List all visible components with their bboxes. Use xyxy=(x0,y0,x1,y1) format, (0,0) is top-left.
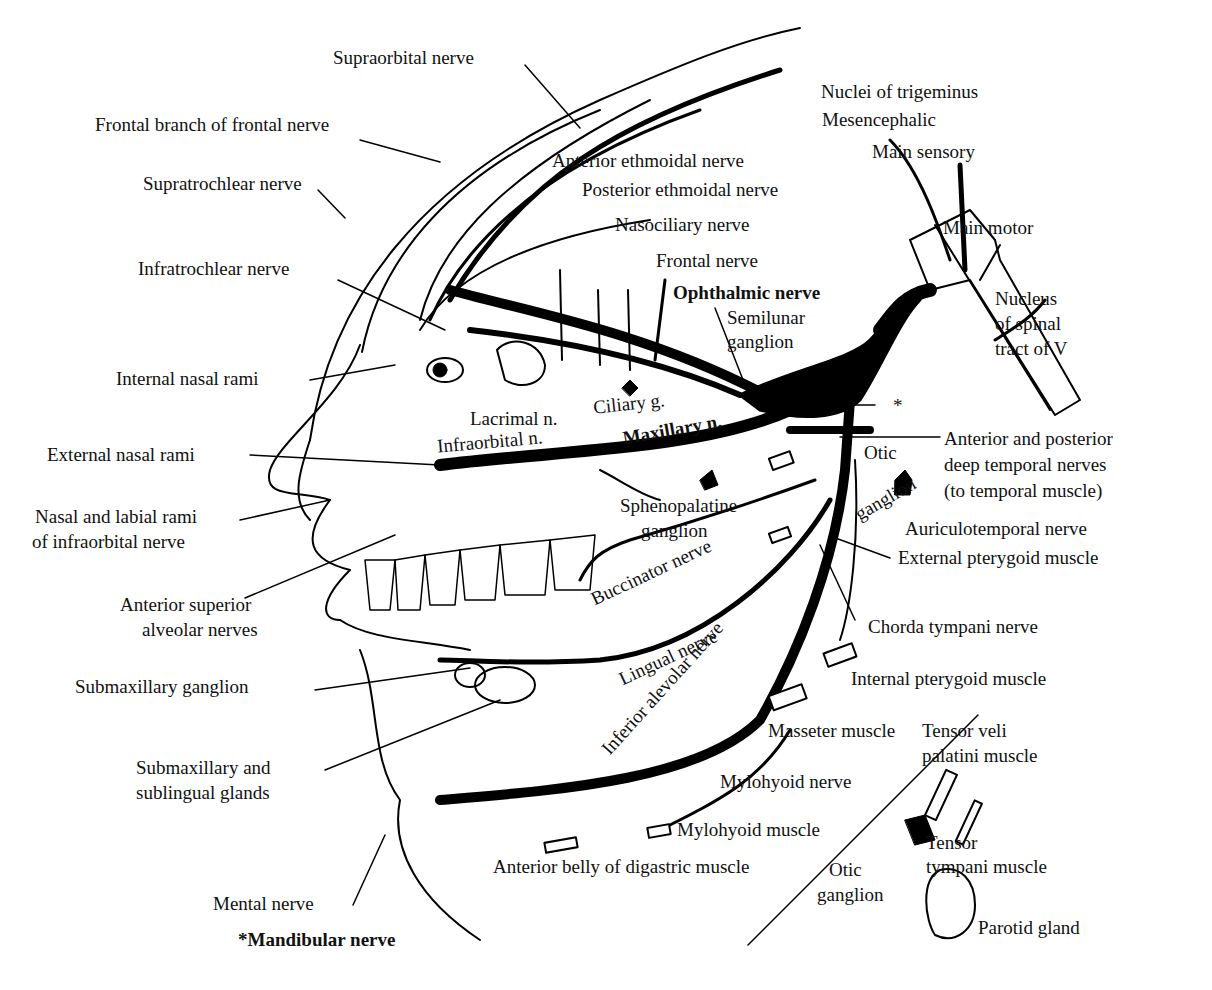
label-sphenopalatine-line1: Sphenopalatine xyxy=(620,494,737,517)
label-frontal-branch-of-frontal-nerve: Frontal branch of frontal nerve xyxy=(95,113,329,136)
label-external-pterygoid-muscle: External pterygoid muscle xyxy=(898,546,1099,569)
label-tensor-veli-line1: Tensor veli xyxy=(922,719,1007,742)
label-parotid-gland: Parotid gland xyxy=(978,916,1080,939)
label-mesencephalic: Mesencephalic xyxy=(822,108,936,131)
label-nasociliary-nerve: Nasociliary nerve xyxy=(615,213,750,236)
label-submaxillary-glands-line1: Submaxillary and xyxy=(136,756,271,779)
label-otic-ganglion-bottom-line1: Otic xyxy=(829,858,862,881)
label-mental-nerve: Mental nerve xyxy=(213,892,314,915)
label-otic-ganglion-top-line1: Otic xyxy=(864,441,897,464)
label-infratrochlear-nerve: Infratrochlear nerve xyxy=(138,257,289,280)
label-anterior-ethmoidal-nerve: Anterior ethmoidal nerve xyxy=(552,149,744,172)
label-main-sensory: Main sensory xyxy=(872,140,975,163)
label-masseter-muscle: Masseter muscle xyxy=(768,719,895,742)
label-deep-temporal-line1: Anterior and posterior xyxy=(944,427,1113,450)
label-nucleus-spinal-line1: Nucleus xyxy=(995,287,1057,310)
label-mandibular-nerve-footnote: *Mandibular nerve xyxy=(238,928,395,951)
label-semilunar-ganglion-line2: ganglion xyxy=(727,330,794,353)
label-deep-temporal-line3: (to temporal muscle) xyxy=(944,479,1102,502)
label-external-nasal-rami: External nasal rami xyxy=(47,443,195,466)
label-mylohyoid-muscle: Mylohyoid muscle xyxy=(677,818,820,841)
eye xyxy=(427,342,545,385)
label-internal-pterygoid-muscle: Internal pterygoid muscle xyxy=(851,667,1046,690)
brainstem xyxy=(890,140,1080,415)
label-otic-ganglion-bottom-line2: ganglion xyxy=(817,883,884,906)
label-nucleus-spinal-line3: tract of V xyxy=(995,337,1067,360)
label-deep-temporal-line2: deep temporal nerves xyxy=(944,453,1106,476)
label-nasal-labial-rami-line1: Nasal and labial rami xyxy=(35,505,197,528)
label-asterisk-mandibular: * xyxy=(893,394,903,417)
label-nasal-labial-rami-line2: of infraorbital nerve xyxy=(32,530,185,553)
label-anterior-belly-digastric: Anterior belly of digastric muscle xyxy=(493,855,749,878)
label-anterior-superior-alveolar-line1: Anterior superior xyxy=(120,593,251,616)
label-tensor-tympani-line1: Tensor xyxy=(926,831,977,854)
label-internal-nasal-rami: Internal nasal rami xyxy=(116,367,258,390)
label-semilunar-ganglion-line1: Semilunar xyxy=(727,306,805,329)
teeth xyxy=(365,535,595,610)
label-main-motor: Main motor xyxy=(943,216,1033,239)
label-frontal-nerve: Frontal nerve xyxy=(656,249,758,272)
label-mylohyoid-nerve: Mylohyoid nerve xyxy=(720,770,851,793)
label-anterior-superior-alveolar-line2: alveolar nerves xyxy=(142,618,258,641)
label-lacrimal-n: Lacrimal n. xyxy=(470,407,558,430)
label-submaxillary-glands-line2: sublingual glands xyxy=(136,781,270,804)
label-tensor-veli-line2: palatini muscle xyxy=(922,744,1038,767)
label-posterior-ethmoidal-nerve: Posterior ethmoidal nerve xyxy=(582,178,778,201)
label-supratrochlear-nerve: Supratrochlear nerve xyxy=(143,172,302,195)
label-submaxillary-ganglion: Submaxillary ganglion xyxy=(75,675,249,698)
label-ophthalmic-nerve: Ophthalmic nerve xyxy=(673,281,820,304)
label-supraorbital-nerve: Supraorbital nerve xyxy=(333,46,474,69)
label-chorda-tympani-nerve: Chorda tympani nerve xyxy=(868,615,1038,638)
label-nucleus-spinal-line2: of spinal xyxy=(995,312,1061,335)
mandibular-branches xyxy=(440,400,870,830)
label-tensor-tympani-line2: tympani muscle xyxy=(926,855,1047,878)
label-auriculotemporal-nerve: Auriculotemporal nerve xyxy=(905,517,1087,540)
label-nuclei-of-trigeminus: Nuclei of trigeminus xyxy=(821,80,978,103)
